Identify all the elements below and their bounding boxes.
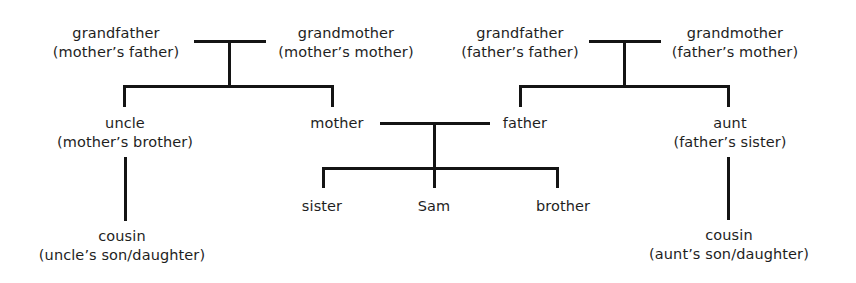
node-sublabel: (uncle’s son/daughter) (39, 246, 205, 265)
node-sublabel: (mother’s mother) (278, 43, 413, 62)
drop-line-brother (556, 167, 559, 188)
node-brother: brother (536, 197, 590, 216)
node-grandfather-paternal: grandfather (father’s father) (461, 24, 578, 62)
node-label: grandfather (53, 24, 179, 43)
sibling-bar-father-aunt (519, 85, 730, 88)
drop-line-father (519, 85, 522, 107)
descent-line-maternal-grandparents (228, 40, 231, 87)
node-cousin-maternal: cousin (uncle’s son/daughter) (39, 227, 205, 265)
node-sublabel: (father’s father) (461, 43, 578, 62)
drop-line-uncle (123, 85, 126, 107)
node-sam: Sam (418, 197, 451, 216)
node-label: cousin (649, 226, 809, 245)
descent-line-paternal-grandparents (623, 40, 626, 87)
descent-line-parents (433, 122, 436, 169)
descent-line-aunt-cousin (727, 157, 730, 220)
node-label: father (503, 114, 547, 133)
node-sublabel: (father’s sister) (673, 133, 786, 152)
node-label: brother (536, 197, 590, 216)
node-cousin-paternal: cousin (aunt’s son/daughter) (649, 226, 809, 264)
descent-line-uncle-cousin (124, 157, 127, 221)
node-sister: sister (302, 197, 342, 216)
node-label: grandmother (278, 24, 413, 43)
node-grandmother-maternal: grandmother (mother’s mother) (278, 24, 413, 62)
node-grandmother-paternal: grandmother (father’s mother) (672, 24, 798, 62)
node-sublabel: (aunt’s son/daughter) (649, 245, 809, 264)
drop-line-sister (322, 167, 325, 188)
node-mother: mother (310, 114, 363, 133)
drop-line-aunt (727, 85, 730, 107)
sibling-bar-uncle-mother (123, 85, 334, 88)
node-sublabel: (mother’s father) (53, 43, 179, 62)
node-sublabel: (father’s mother) (672, 43, 798, 62)
node-label: grandmother (672, 24, 798, 43)
family-tree-diagram: grandfather (mother’s father) grandmothe… (0, 0, 856, 283)
node-sublabel: (mother’s brother) (57, 133, 193, 152)
drop-line-mother (331, 85, 334, 107)
node-label: grandfather (461, 24, 578, 43)
node-grandfather-maternal: grandfather (mother’s father) (53, 24, 179, 62)
node-uncle: uncle (mother’s brother) (57, 114, 193, 152)
node-label: mother (310, 114, 363, 133)
node-aunt: aunt (father’s sister) (673, 114, 786, 152)
node-label: uncle (57, 114, 193, 133)
node-label: aunt (673, 114, 786, 133)
node-label: cousin (39, 227, 205, 246)
node-label: Sam (418, 197, 451, 216)
node-label: sister (302, 197, 342, 216)
drop-line-sam (433, 167, 436, 188)
node-father: father (503, 114, 547, 133)
sibling-bar-children (322, 167, 559, 170)
